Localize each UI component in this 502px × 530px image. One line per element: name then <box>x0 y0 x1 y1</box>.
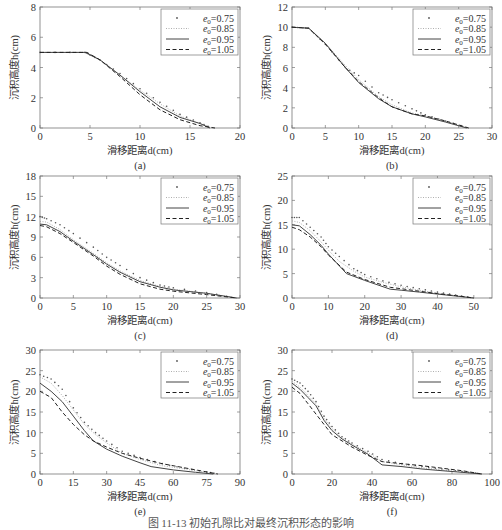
series-line <box>292 227 474 298</box>
data-point <box>153 97 155 99</box>
x-tick-label: 20 <box>420 131 431 142</box>
x-tick-label: 75 <box>201 477 212 488</box>
data-point <box>111 444 113 446</box>
data-point <box>381 459 383 461</box>
data-point <box>360 272 362 274</box>
data-point <box>412 287 414 289</box>
data-point <box>318 406 320 408</box>
data-point <box>416 110 418 112</box>
y-tick-label: 6 <box>283 63 288 74</box>
data-point <box>345 438 347 440</box>
x-tick-label: 10 <box>323 301 334 312</box>
data-point <box>87 425 89 427</box>
data-point <box>320 236 322 238</box>
y-tick-label: 25 <box>26 366 37 377</box>
data-point <box>69 401 71 403</box>
data-point <box>50 220 52 222</box>
data-point <box>97 250 99 252</box>
series-line <box>40 226 237 299</box>
data-point <box>353 72 355 74</box>
chart-panel-a: 0510152002468滑移距离d(cm)沉积高度h(cm)(a)e0=0.7… <box>8 2 245 172</box>
series-line <box>40 52 215 128</box>
y-tick-label: 15 <box>278 220 289 231</box>
data-point <box>325 243 327 245</box>
data-point <box>377 456 379 458</box>
y-tick-label: 5 <box>283 269 288 280</box>
y-tick-label: 15 <box>278 407 289 418</box>
data-point <box>306 223 308 225</box>
x-axis-label: 滑移距离d(cm) <box>107 144 173 157</box>
x-tick-label: 40 <box>367 477 378 488</box>
figure-caption: 图 11-13 初始孔隙比对最终沉积形态的影响 <box>0 514 502 530</box>
y-tick-label: 12 <box>26 212 37 223</box>
y-tick-label: 20 <box>278 386 289 397</box>
legend-marker-dot <box>428 360 430 362</box>
data-point <box>294 217 296 219</box>
data-point <box>335 429 337 431</box>
data-point <box>86 242 88 244</box>
data-point <box>115 262 117 264</box>
data-point <box>372 453 374 455</box>
x-tick-label: 100 <box>484 477 500 488</box>
y-tick-label: 20 <box>26 386 37 397</box>
data-point <box>166 106 168 108</box>
data-point <box>391 99 393 101</box>
data-point <box>348 264 350 266</box>
data-point <box>133 455 135 457</box>
legend-marker-dot <box>176 360 178 362</box>
data-point <box>146 92 148 94</box>
y-tick-label: 6 <box>31 32 36 43</box>
series-line <box>292 225 474 298</box>
data-point <box>106 257 108 259</box>
data-point <box>382 280 384 282</box>
data-point <box>39 374 41 376</box>
y-axis-label: 沉积高度h(cm) <box>8 379 21 445</box>
data-point <box>126 269 128 271</box>
x-axis-label: 滑移距离d(cm) <box>359 144 425 157</box>
data-point <box>365 80 367 82</box>
x-tick-label: 15 <box>387 131 398 142</box>
data-point <box>153 282 155 284</box>
data-point <box>47 377 49 379</box>
data-point <box>73 233 75 235</box>
legend: e0=0.75e0=0.85e0=0.95e0=1.05 <box>161 9 238 57</box>
y-tick-label: 3 <box>31 273 36 284</box>
y-axis-label: 沉积高度h(cm) <box>260 204 273 270</box>
series-line <box>40 221 237 298</box>
data-point <box>93 246 95 248</box>
data-point <box>364 274 366 276</box>
data-point <box>101 253 103 255</box>
x-tick-label: 0 <box>37 477 42 488</box>
y-tick-label: 15 <box>26 407 37 418</box>
x-tick-label: 15 <box>135 301 146 312</box>
y-tick-label: 2 <box>31 93 36 104</box>
data-point <box>387 97 389 99</box>
series-line <box>292 387 482 474</box>
x-tick-label: 45 <box>135 477 146 488</box>
data-point <box>348 440 350 442</box>
data-point <box>302 385 304 387</box>
x-axis-label: 滑移距离d(cm) <box>359 490 425 503</box>
y-tick-label: 15 <box>26 191 37 202</box>
series-line <box>40 391 218 474</box>
y-tick-label: 10 <box>26 428 37 439</box>
data-point <box>329 422 331 424</box>
x-tick-label: 5 <box>71 301 76 312</box>
data-point <box>371 86 373 88</box>
data-point <box>41 217 43 219</box>
data-point <box>64 227 66 229</box>
data-point <box>184 289 186 291</box>
data-point <box>39 216 41 218</box>
x-tick-label: 10 <box>101 301 112 312</box>
data-point <box>106 440 108 442</box>
data-point <box>80 417 82 419</box>
data-point <box>98 435 100 437</box>
y-tick-label: 5 <box>31 448 36 459</box>
y-tick-label: 4 <box>31 63 37 74</box>
x-tick-label: 30 <box>101 477 112 488</box>
data-point <box>420 112 422 114</box>
data-point <box>68 230 70 232</box>
data-point <box>382 94 384 96</box>
data-point <box>44 217 46 219</box>
y-tick-label: 9 <box>31 232 36 243</box>
